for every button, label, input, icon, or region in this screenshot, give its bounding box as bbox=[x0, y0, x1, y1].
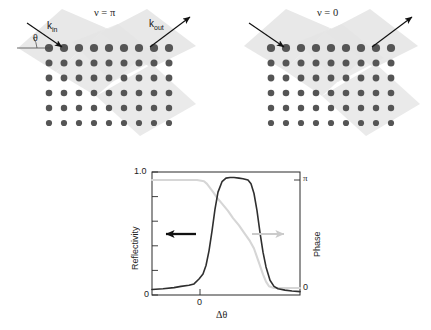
y-right-axis-title: Phase bbox=[312, 205, 322, 257]
right-panel-condition-label: ν = 0 bbox=[317, 7, 338, 18]
figure-root: ν = π ν = 0 kin kout θ 1.0 0 Reflectivit… bbox=[0, 0, 431, 330]
y-left-axis-title: Reflectivity bbox=[130, 198, 140, 270]
left-panel-condition-label: ν = π bbox=[94, 7, 115, 18]
plot-group bbox=[152, 172, 300, 295]
figure-canvas bbox=[0, 0, 431, 330]
y-right-bottom-tick-label: 0 bbox=[303, 282, 308, 292]
y-left-top-tick-label: 1.0 bbox=[134, 166, 147, 176]
k-in-label: kin bbox=[47, 20, 57, 33]
x-center-tick-label: 0 bbox=[197, 297, 202, 307]
left-panel-beams bbox=[18, 9, 196, 136]
right-panel-beams bbox=[244, 9, 420, 136]
y-left-bottom-tick-label: 0 bbox=[144, 289, 149, 299]
y-right-top-tick-label: π bbox=[303, 173, 308, 183]
k-in-subscript: in bbox=[52, 26, 57, 33]
k-out-subscript: out bbox=[154, 24, 164, 31]
x-axis-title: Δθ bbox=[216, 309, 227, 320]
theta-angle-label: θ bbox=[33, 32, 38, 43]
k-out-label: kout bbox=[149, 18, 164, 31]
